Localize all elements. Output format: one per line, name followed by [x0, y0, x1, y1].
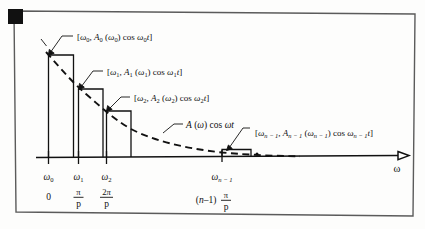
annotation-omega0: [ω0, A0 (ω0) cos ω0t]	[77, 32, 152, 43]
annotation-omega2: [ω2, A2 (ω2) cos ω2t]	[134, 93, 209, 104]
figure-page: ω [ω0, A0 (ω0)	[0, 0, 425, 229]
tick-value-omega1-numerator: π	[76, 187, 81, 197]
tick-value-omega0: 0	[46, 192, 51, 202]
annotation-omega2-close: ]	[206, 93, 209, 103]
bar-omega2	[107, 111, 132, 157]
tick-value-omega-n-1: (n–1) (n–1) π p	[0, 0, 231, 212]
tick-label-omega0-symbol: ω0	[43, 172, 54, 183]
leader-line-envelope	[163, 124, 183, 133]
annotation-omega2-arg-close: ) cos	[175, 93, 195, 103]
tick-label-omega1-symbol: ω1	[73, 172, 83, 183]
tick-value-omega1-denominator: p	[76, 199, 81, 209]
omega-axis	[36, 156, 398, 158]
leader-line-omega2	[109, 97, 130, 109]
annotation-omega-n-1-cos-sub: n − 1	[354, 132, 368, 139]
annotation-omega-n-1-amp-sub: n − 1	[288, 132, 302, 139]
tick-value-omega2-numerator: 2π	[102, 187, 111, 197]
leader-line-omega-n-1	[229, 128, 250, 148]
tick-value-omega2-denominator: p	[104, 199, 109, 209]
black-square-marker	[8, 9, 23, 24]
leader-line-omega0	[50, 36, 73, 53]
tick-value-omega-n-1-numerator: π	[224, 190, 229, 200]
annotation-omega-n-1-arg-sub: n − 1	[314, 132, 328, 139]
annotation-omega-n-1-close: ]	[370, 128, 373, 138]
annotation-omega-n-1: [ωn − 1, An − 1 (ωn − 1) cos ωn − 1t]	[255, 128, 373, 139]
annotation-omega0-arg-close: ) cos	[118, 32, 138, 42]
annotation-omega1-close: ]	[179, 67, 182, 77]
spectrum-figure: ω [ω0, A0 (ω0)	[0, 0, 425, 229]
bar-omega0	[49, 55, 74, 157]
annotation-omega-n-1-arg-close: ) cos	[328, 128, 348, 138]
annotation-omega0-close: ]	[149, 32, 152, 42]
tick-value-omega1: π p	[74, 187, 84, 209]
tick-value-omega-n-1-prefix: (n–1)	[196, 195, 217, 206]
tick-value-omega-n-1-denominator: p	[224, 202, 229, 212]
leader-line-omega1	[81, 71, 103, 87]
omega-axis-arrowhead	[398, 152, 409, 160]
axis-label-omega: ω	[394, 163, 401, 174]
annotation-omega1: [ω1, A1 (ω1) cos ω1t]	[107, 67, 182, 78]
annotation-omega1-arg-close: ) cos	[148, 67, 168, 77]
tick-label-omega2-symbol: ω2	[101, 172, 111, 183]
bar-omega1	[79, 89, 104, 157]
annotation-envelope: A (ω) cos ωt	[185, 120, 234, 131]
annotation-omega-n-1-freq-sub: n − 1	[264, 132, 278, 139]
stray-mark-upper-left	[41, 39, 47, 46]
tick-label-omega-n-1-symbol: ωn − 1	[211, 172, 232, 183]
